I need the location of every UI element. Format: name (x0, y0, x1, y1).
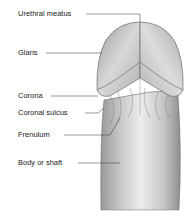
label-glans: Glans (18, 48, 38, 57)
label-frenulum: Frenulum (18, 130, 50, 139)
label-coronal-sulcus: Coronal sulcus (18, 108, 68, 117)
label-body-or-shaft: Body or shaft (18, 158, 62, 167)
glans-left-lobe (97, 22, 140, 96)
shaft (98, 91, 184, 215)
glans-right-lobe (140, 22, 183, 96)
label-corona: Corona (18, 91, 43, 100)
label-urethral-meatus: Urethral meatus (18, 9, 71, 18)
